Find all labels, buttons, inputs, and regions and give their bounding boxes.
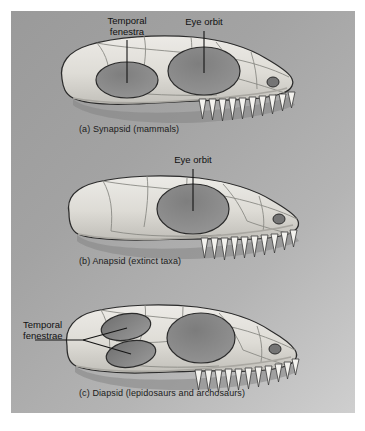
panel-anapsid: Eye orbit (b) Anapsid (extinct taxa) — [11, 151, 355, 286]
synapsid-skull-diagram — [11, 11, 355, 151]
label-temporal-fenestrae-c: Temporal fenestrae — [23, 319, 83, 341]
panel-diapsid: Temporal fenestrae (c) Diapsid (lepidosa… — [11, 286, 355, 413]
caption-diapsid: (c) Diapsid (lepidosaurs and archosaurs) — [79, 388, 245, 398]
label-eye-orbit-a: Eye orbit — [166, 16, 242, 27]
nostril-opening — [267, 77, 279, 87]
label-eye-orbit-b: Eye orbit — [155, 154, 231, 165]
anapsid-skull-diagram — [11, 151, 355, 286]
figure-panel: Temporal fenestra Eye orbit (a) Synapsid… — [11, 11, 355, 413]
nostril-opening — [273, 214, 285, 224]
eye-orbit-opening — [167, 313, 235, 363]
caption-synapsid: (a) Synapsid (mammals) — [79, 124, 179, 134]
label-temporal-fenestra-a: Temporal fenestra — [86, 15, 168, 37]
caption-anapsid: (b) Anapsid (extinct taxa) — [79, 256, 181, 266]
nostril-opening — [269, 344, 281, 354]
panel-synapsid: Temporal fenestra Eye orbit (a) Synapsid… — [11, 11, 355, 151]
